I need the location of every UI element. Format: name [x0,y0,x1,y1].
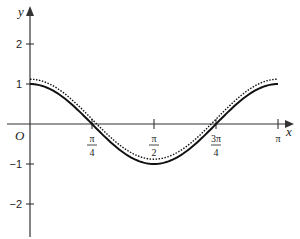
y-tick-label: 2 [16,38,22,50]
x-tick-numerator: π [89,133,94,144]
x-axis-label: x [285,124,292,139]
chart: x y O 21−1−2π4π23π4π [0,0,300,239]
x-tick-numerator: π [275,133,280,144]
y-axis-arrow-icon [26,6,34,16]
y-tick-label: −2 [9,198,22,210]
y-tick-label: 1 [16,78,22,90]
x-tick-denominator: 4 [90,147,95,158]
x-tick-numerator: 3π [211,133,221,144]
x-tick-denominator: 4 [214,147,219,158]
origin-label: O [15,128,25,143]
y-tick-label: −1 [9,158,22,170]
y-axis-label: y [16,4,24,19]
axes: x y O [7,4,294,237]
x-tick-denominator: 2 [152,147,157,158]
x-tick-numerator: π [151,133,156,144]
